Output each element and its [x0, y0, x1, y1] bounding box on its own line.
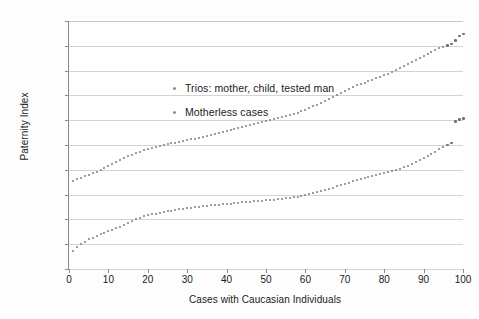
data-point [100, 169, 102, 171]
data-point [423, 55, 425, 57]
data-point [391, 170, 393, 172]
data-point [151, 213, 153, 215]
data-point [253, 200, 255, 202]
data-point [340, 184, 342, 186]
data-point [379, 173, 381, 175]
data-point [454, 120, 457, 123]
data-point [84, 241, 86, 243]
legend-item-motherless: Motherless cases [173, 100, 334, 124]
y-axis-title: Paternity Index [19, 57, 30, 197]
x-tick-mark [187, 269, 188, 273]
data-point [411, 61, 413, 63]
data-point [233, 202, 235, 204]
data-point [438, 47, 440, 49]
data-point [403, 166, 405, 168]
data-point [80, 177, 82, 179]
data-point [155, 213, 157, 215]
data-point [88, 238, 90, 240]
x-tick-mark [266, 269, 267, 273]
data-point [375, 77, 377, 79]
gridline [69, 21, 463, 22]
data-point [430, 51, 432, 53]
data-point [375, 174, 377, 176]
data-point [107, 165, 109, 167]
x-tick-label: 60 [285, 274, 325, 285]
data-point [100, 233, 102, 235]
data-point [336, 185, 338, 187]
x-tick-mark [305, 269, 306, 273]
data-point [360, 178, 362, 180]
data-point [265, 199, 267, 201]
data-point [438, 148, 440, 150]
data-point [340, 92, 342, 94]
data-point [111, 229, 113, 231]
data-point [336, 94, 338, 96]
y-tick-mark [65, 244, 69, 245]
legend-marker-dot [173, 87, 176, 90]
data-point [273, 199, 275, 201]
data-point [103, 232, 105, 234]
data-point [348, 88, 350, 90]
data-point [415, 161, 417, 163]
data-point [241, 201, 243, 203]
data-point [387, 171, 389, 173]
data-point [230, 203, 232, 205]
data-point [72, 180, 74, 182]
x-tick-mark [424, 269, 425, 273]
data-point [249, 124, 251, 126]
data-point [324, 189, 326, 191]
data-point [182, 140, 184, 142]
x-tick-mark [227, 269, 228, 273]
data-point [399, 168, 401, 170]
data-point [454, 39, 457, 42]
data-point [423, 157, 425, 159]
data-point [241, 126, 243, 128]
data-point [257, 200, 259, 202]
data-point [399, 67, 401, 69]
data-point [88, 174, 90, 176]
data-point [348, 182, 350, 184]
data-point [237, 202, 239, 204]
data-point [371, 175, 373, 177]
x-tick-label: 30 [167, 274, 207, 285]
data-point [167, 210, 169, 212]
data-point [458, 35, 461, 38]
data-point [245, 125, 247, 127]
gridline [69, 46, 463, 47]
data-point [170, 142, 172, 144]
data-point [379, 76, 381, 78]
data-point [383, 172, 385, 174]
data-point [107, 230, 109, 232]
data-point [458, 118, 461, 121]
gridline [69, 71, 463, 72]
data-point [103, 167, 105, 169]
data-point [131, 154, 133, 156]
x-tick-label: 50 [246, 274, 286, 285]
x-tick-label: 0 [49, 274, 89, 285]
data-point [119, 159, 121, 161]
x-tick-label: 10 [88, 274, 128, 285]
data-point [320, 190, 322, 192]
data-point [230, 129, 232, 131]
x-tick-mark [108, 269, 109, 273]
data-point [364, 177, 366, 179]
data-point [446, 44, 449, 47]
data-point [450, 142, 453, 145]
data-point [190, 138, 192, 140]
x-tick-mark [148, 269, 149, 273]
data-point [419, 57, 421, 59]
data-point [261, 200, 263, 202]
data-point [76, 246, 78, 248]
data-point [127, 155, 129, 157]
x-tick-mark [463, 269, 464, 273]
data-point [226, 203, 228, 205]
data-point [391, 71, 393, 73]
data-point [297, 196, 299, 198]
data-point [206, 135, 208, 137]
data-point [344, 90, 346, 92]
data-point [96, 235, 98, 237]
data-point [419, 159, 421, 161]
data-point [427, 155, 429, 157]
data-point [446, 144, 449, 147]
data-point [119, 226, 121, 228]
